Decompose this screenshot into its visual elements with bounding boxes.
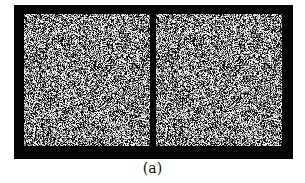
stereogram-right-panel bbox=[156, 14, 282, 146]
figure-frame bbox=[14, 5, 293, 159]
figure-caption: (a) bbox=[0, 160, 305, 176]
stereogram-left-panel bbox=[24, 14, 150, 146]
